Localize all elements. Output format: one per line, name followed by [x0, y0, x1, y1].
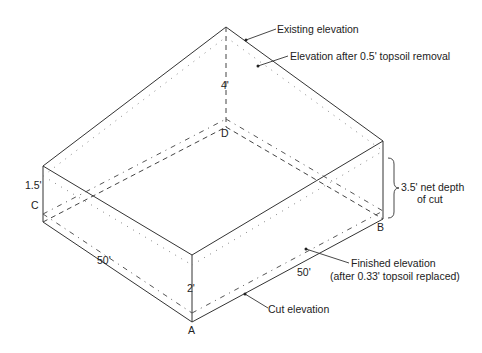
callout-existing-elevation: Existing elevation — [277, 23, 359, 35]
dimension-length-right: 50' — [297, 266, 311, 278]
callout-net-depth-line2: of cut — [417, 193, 443, 205]
topsoil-removal-surface — [43, 37, 383, 265]
corner-label-b: B — [377, 221, 384, 233]
finished-elevation-surface — [43, 119, 383, 313]
dimension-depth-d: 4' — [221, 79, 229, 91]
corner-label-c: C — [31, 199, 39, 211]
cut-volume-diagram: A B C D 4' 1.5' 2' 50' 50' Existing elev… — [0, 0, 482, 353]
vertical-edges — [43, 141, 383, 322]
callout-topsoil-removal: Elevation after 0.5' topsoil removal — [290, 50, 450, 62]
corner-label-d: D — [221, 127, 229, 139]
dimension-length-left: 50' — [97, 254, 111, 266]
callout-finished-line2: (after 0.33' topsoil replaced) — [330, 270, 460, 282]
callout-cut-elevation: Cut elevation — [268, 303, 329, 315]
net-depth-brace — [388, 158, 399, 218]
corner-label-a: A — [188, 324, 195, 336]
callout-net-depth-line1: 3.5' net depth — [401, 181, 464, 193]
callout-finished-line1: Finished elevation — [351, 257, 436, 269]
dimension-depth-a: 2' — [187, 282, 195, 294]
hidden-bottom-edges — [43, 127, 383, 222]
dimension-depth-c: 1.5' — [25, 179, 42, 191]
